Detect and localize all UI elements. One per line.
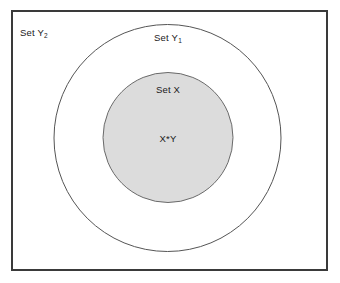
label-set-y2-text: Set Y — [20, 27, 45, 38]
venn-diagram-canvas: Set Y2 Set Y1 Set X X*Y — [0, 0, 340, 283]
label-set-y1: Set Y1 — [154, 32, 182, 44]
label-intersection-text: X*Y — [160, 133, 177, 144]
label-intersection-x-times-y: X*Y — [160, 133, 177, 144]
venn-diagram-container: Set Y2 Set Y1 Set X X*Y — [0, 0, 340, 283]
label-set-y1-subscript: 1 — [178, 37, 182, 44]
label-set-y2: Set Y2 — [20, 27, 48, 39]
label-set-x: Set X — [156, 84, 181, 95]
label-set-x-text: Set X — [156, 84, 181, 95]
label-set-y2-subscript: 2 — [44, 32, 48, 39]
label-set-y1-text: Set Y — [154, 32, 179, 43]
